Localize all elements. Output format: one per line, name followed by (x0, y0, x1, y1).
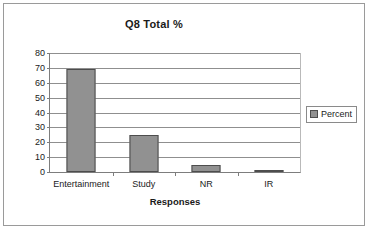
x-axis-tick-mark (238, 172, 239, 176)
x-axis-title: Responses (49, 196, 301, 207)
y-axis-tick-label: 20 (35, 137, 45, 147)
plot-area: 01020304050607080 EntertainmentStudyNRIR (49, 53, 301, 173)
legend-label-percent: Percent (321, 109, 352, 119)
y-axis-tick-label: 80 (35, 48, 45, 58)
y-axis-tick-label: 60 (35, 78, 45, 88)
chart-frame: Q8 Total % 01020304050607080 Entertainme… (3, 3, 365, 226)
x-axis-tick-label: Entertainment (53, 179, 109, 189)
x-axis-tick-mark (113, 172, 114, 176)
y-axis-tick-label: 40 (35, 108, 45, 118)
y-axis-tick-label: 10 (35, 152, 45, 162)
y-axis-tick-label: 0 (40, 167, 45, 177)
bar-slot (50, 53, 113, 172)
x-axis-tick-label: Study (132, 179, 155, 189)
legend-swatch-percent (310, 110, 318, 118)
chart-legend: Percent (306, 106, 357, 123)
x-axis-tick-label: IR (264, 179, 273, 189)
x-axis-tick-mark (175, 172, 176, 176)
x-axis-tick-label: NR (200, 179, 213, 189)
bar-entertainment (67, 69, 96, 172)
y-axis-tick-mark (47, 172, 50, 173)
y-axis-tick-label: 30 (35, 122, 45, 132)
bar-slot (175, 53, 238, 172)
bar-slot (113, 53, 176, 172)
y-axis-tick-label: 70 (35, 63, 45, 73)
bar-study (129, 135, 158, 172)
bar-ir (254, 170, 283, 172)
y-axis-tick-label: 50 (35, 93, 45, 103)
bar-slot (238, 53, 301, 172)
bar-nr (192, 165, 221, 172)
chart-title: Q8 Total % (4, 18, 304, 30)
